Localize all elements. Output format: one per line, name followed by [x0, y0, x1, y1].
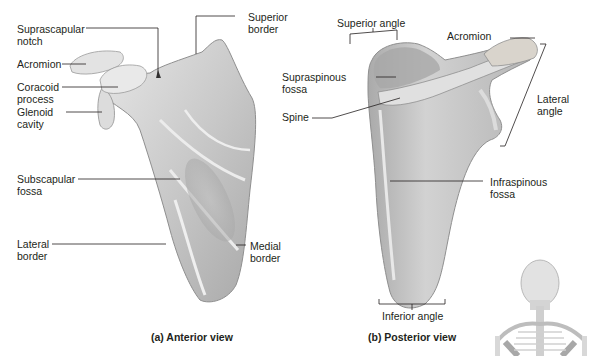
- caption-posterior-view: (b) Posterior view: [368, 331, 456, 343]
- label-spine: Spine: [282, 111, 309, 123]
- label-glenoid-cavity: Glenoid cavity: [17, 106, 53, 130]
- label-subscapular-fossa: Subscapular fossa: [17, 173, 75, 197]
- scapula-figure: Suprascapular notch Acromion Coracoid pr…: [0, 0, 602, 356]
- label-suprascapular-notch: Suprascapular notch: [17, 23, 85, 47]
- label-infraspinous-fossa: Infraspinous fossa: [490, 176, 547, 200]
- posterior-scapula: [368, 38, 537, 308]
- label-lateral-border: Lateral border: [17, 238, 49, 262]
- label-medial-border: Medial border: [250, 240, 281, 264]
- label-coracoid-process: Coracoid process: [17, 81, 59, 105]
- caption-anterior-view: (a) Anterior view: [151, 331, 233, 343]
- label-inferior-angle: Inferior angle: [382, 310, 443, 322]
- label-acromion-anterior: Acromion: [17, 58, 61, 70]
- label-lateral-angle: Lateral angle: [537, 93, 569, 117]
- anterior-scapula: [70, 40, 256, 302]
- label-acromion-posterior: Acromion: [447, 30, 491, 42]
- label-superior-border: Superior border: [248, 11, 288, 35]
- label-superior-angle: Superior angle: [337, 17, 405, 29]
- label-supraspinous-fossa: Supraspinous fossa: [282, 71, 346, 95]
- skeleton-inset: [495, 260, 587, 356]
